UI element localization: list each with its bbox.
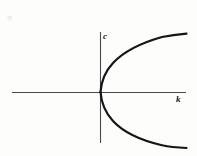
parabola-lower-branch	[101, 92, 187, 148]
plot-canvas	[0, 0, 197, 156]
y-axis-label: c	[103, 32, 107, 41]
parabola-upper-branch	[101, 34, 187, 92]
x-axis-label: k	[176, 95, 181, 104]
parabola-figure: c k	[0, 0, 197, 156]
